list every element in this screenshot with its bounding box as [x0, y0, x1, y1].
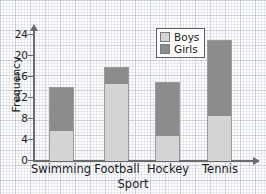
legend-label-girls: Girls	[174, 44, 198, 55]
legend-item-boys: Boys	[160, 31, 199, 43]
y-axis-arrow-icon	[30, 24, 38, 31]
x-axis-title: Sport	[0, 177, 266, 191]
bar-swimming-girls-segment	[50, 88, 73, 131]
plot-area: 24 20 16 12 8 4 0 Frequency Sport	[0, 0, 266, 194]
bar-football-boys-segment	[105, 84, 128, 161]
bar-hockey-girls-segment	[156, 83, 179, 137]
y-tick-4	[28, 139, 34, 140]
bar-football-girls-segment	[105, 68, 128, 84]
bar-swimming-boys-segment	[50, 131, 73, 161]
legend-item-girls: Girls	[160, 43, 199, 55]
y-tick-12	[28, 97, 34, 98]
bar-hockey-boys-segment	[156, 136, 179, 161]
y-tick-label-24: 24	[6, 29, 28, 40]
bar-swimming	[49, 87, 74, 160]
y-tick-24	[28, 34, 34, 35]
y-axis-title: Frequency	[10, 40, 23, 130]
y-tick-16	[28, 76, 34, 77]
y-tick-20	[28, 55, 34, 56]
legend-swatch-boys-icon	[160, 32, 170, 42]
y-axis-line	[33, 30, 35, 161]
bar-tennis-girls-segment	[208, 41, 231, 116]
chart-figure: 24 20 16 12 8 4 0 Frequency Sport	[0, 0, 266, 194]
y-tick-0	[28, 160, 34, 161]
chart-legend: Boys Girls	[156, 28, 205, 58]
x-category-tennis: Tennis	[183, 162, 257, 176]
bar-hockey	[155, 82, 180, 160]
bar-tennis	[207, 40, 232, 160]
bar-football	[104, 67, 129, 161]
legend-swatch-girls-icon	[160, 44, 170, 54]
y-tick-8	[28, 118, 34, 119]
bar-tennis-boys-segment	[208, 116, 231, 161]
legend-label-boys: Boys	[174, 32, 199, 43]
y-tick-label-4: 4	[6, 134, 28, 145]
